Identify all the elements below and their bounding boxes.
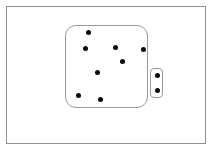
data-point-dot[interactable] xyxy=(95,70,100,75)
data-point-dot[interactable] xyxy=(155,88,160,93)
diagram-canvas xyxy=(0,0,212,150)
data-point-dot[interactable] xyxy=(83,46,88,51)
data-point-dot[interactable] xyxy=(141,47,146,52)
data-point-dot[interactable] xyxy=(76,93,81,98)
data-point-dot[interactable] xyxy=(120,59,125,64)
data-point-dot[interactable] xyxy=(113,45,118,50)
dot-layer xyxy=(0,0,212,150)
data-point-dot[interactable] xyxy=(86,30,91,35)
data-point-dot[interactable] xyxy=(98,97,103,102)
data-point-dot[interactable] xyxy=(155,73,160,78)
